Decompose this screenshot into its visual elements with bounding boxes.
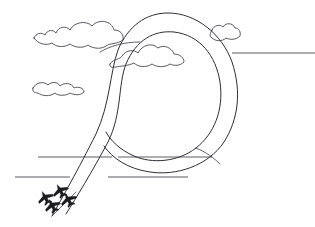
sky-background <box>0 0 315 227</box>
line-drawing-svg <box>0 0 315 227</box>
drawing-canvas: Jet Formation Smoke Loop four-jet format… <box>0 0 315 227</box>
